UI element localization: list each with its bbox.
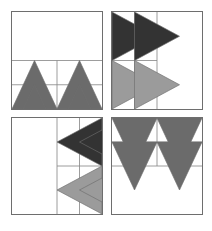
quilt-diagram-canvas	[0, 0, 212, 231]
quilt-block-top-left-graphic	[12, 12, 102, 109]
quilt-block-bottom-left[interactable]	[11, 117, 103, 215]
quilt-block-top-right-graphic	[112, 12, 202, 109]
quilt-block-bottom-right-graphic	[112, 118, 202, 214]
quilt-block-bottom-left-graphic	[12, 118, 102, 214]
quilt-block-top-right[interactable]	[111, 11, 203, 110]
quilt-block-top-left[interactable]	[11, 11, 103, 110]
quilt-block-bottom-right[interactable]	[111, 117, 203, 215]
